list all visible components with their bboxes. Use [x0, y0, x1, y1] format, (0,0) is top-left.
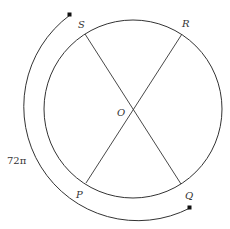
label-q: Q [185, 190, 193, 201]
label-p: P [75, 189, 83, 200]
diameter-rp [86, 34, 182, 183]
arc-start-marker [68, 13, 72, 17]
label-s: S [78, 19, 85, 30]
arc-length-label: 72π [7, 155, 27, 166]
outer-arc [24, 15, 190, 221]
label-r: R [181, 18, 190, 29]
arc-end-marker [188, 206, 192, 210]
label-o: O [117, 107, 125, 118]
circle-diagram: S R O P Q 72π [0, 0, 230, 229]
